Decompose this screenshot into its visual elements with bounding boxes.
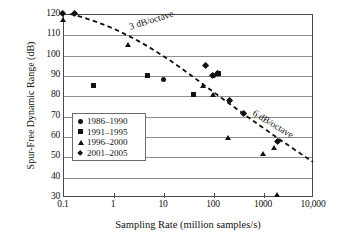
data-point-triangle [200,83,206,88]
y-axis-title: Spur-Free Dynamic Range (dB) [25,18,36,194]
x-tick-label: 1000 [238,199,288,209]
data-point-triangle [225,135,231,140]
legend-item-label: 2001–2005 [87,148,128,158]
data-point-triangle [210,92,216,97]
x-tick-label: 10 [138,199,188,209]
legend-item-label: 1996–2000 [87,137,128,147]
data-point-triangle [274,192,280,197]
data-point-square [191,92,196,97]
chart-figure: 30405060708090100110120 0.1110100100010,… [0,0,349,240]
x-tick-label: 0.1 [38,199,88,209]
x-tick-label: 100 [188,199,238,209]
x-tick-label: 1 [88,199,138,209]
legend-item-label: 1991–1995 [87,127,128,137]
legend-item-diamond: 2001–2005 [76,148,142,159]
x-tick-label: 10,000 [288,199,338,209]
x-axis-ticks: 0.1110100100010,000 [0,0,349,240]
data-point-circle [161,77,166,82]
data-point-triangle [125,42,131,47]
data-point-triangle [260,151,266,156]
diamond-icon [76,148,85,157]
data-point-square [145,73,150,78]
chart-legend: 1986–19901991–19951996–20002001–2005 [72,113,146,161]
data-point-square [91,83,96,88]
legend-item-circle: 1986–1990 [76,116,142,127]
square-icon [76,127,85,136]
legend-item-triangle: 1996–2000 [76,137,142,148]
legend-item-square: 1991–1995 [76,127,142,138]
x-axis-title: Sampling Rate (million samples/s) [63,219,313,231]
circle-icon [76,117,85,126]
triangle-icon [76,138,85,147]
legend-item-label: 1986–1990 [87,116,128,126]
data-point-triangle [271,145,277,150]
data-point-triangle [60,17,66,22]
